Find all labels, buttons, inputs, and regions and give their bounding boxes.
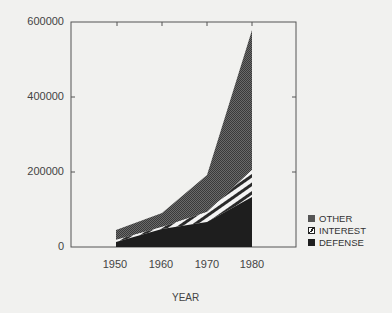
legend-item-other: OTHER [308,212,366,224]
x-tick-1960: 1960 [141,258,181,270]
x-tick-1950: 1950 [95,258,135,270]
legend-label-interest: INTEREST [319,225,366,236]
y-tick-400000: 400000 [4,90,64,102]
x-tick-1970: 1970 [187,258,227,270]
legend-item-interest: INTEREST [308,224,366,236]
y-tick-200000: 200000 [4,165,64,177]
legend-label-other: OTHER [319,213,352,224]
legend: OTHER INTEREST DEFENSE [308,212,366,248]
legend-swatch-interest [308,227,315,234]
y-tick-600000: 600000 [4,15,64,27]
y-tick-0: 0 [4,240,64,252]
x-axis-title: YEAR [172,292,199,303]
legend-label-defense: DEFENSE [319,237,364,248]
legend-swatch-defense [308,239,315,246]
legend-swatch-other [308,215,315,222]
axis-ticks [71,22,296,172]
legend-item-defense: DEFENSE [308,236,366,248]
x-tick-1980: 1980 [232,258,272,270]
